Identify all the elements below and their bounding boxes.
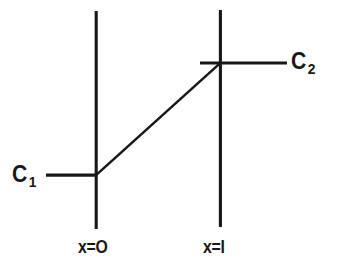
- label-c2-symbol: C: [291, 48, 306, 74]
- label-c1-subscript: 1: [27, 173, 36, 190]
- axis-label-x-equals-1: x=l: [203, 238, 225, 256]
- label-c2: C2: [291, 50, 315, 76]
- concentration-profile-figure: C1 C2 x=O x=l: [0, 0, 338, 270]
- label-c1: C1: [12, 163, 36, 189]
- label-c2-subscript: 2: [306, 60, 315, 77]
- figure-background: [0, 0, 338, 270]
- axis-label-x-equals-0: x=O: [78, 238, 108, 256]
- label-c1-symbol: C: [12, 161, 27, 187]
- figure-canvas: [0, 0, 338, 270]
